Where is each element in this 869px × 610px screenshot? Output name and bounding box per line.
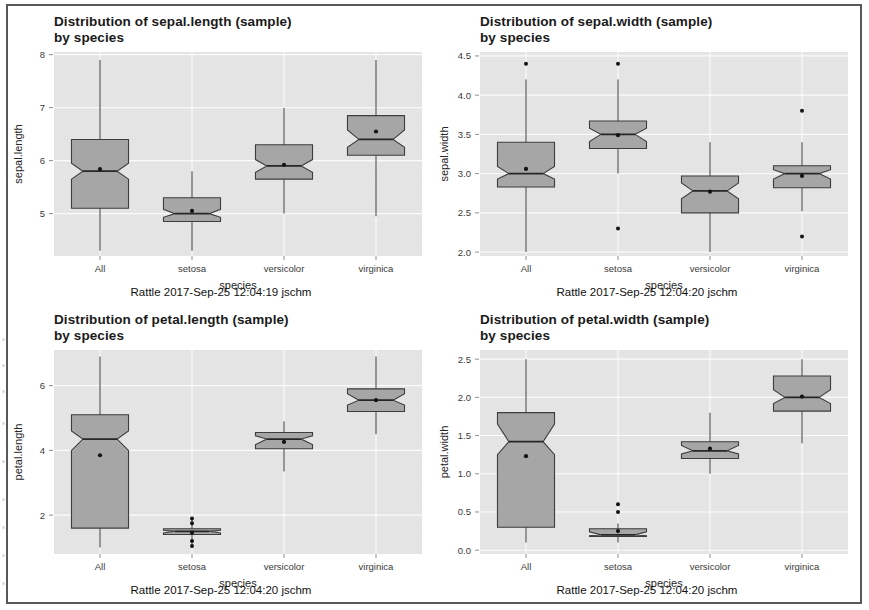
figure-frame: Distribution of sepal.length (sample) by… [6, 4, 862, 604]
x-tick-label-virginica: virginica [359, 263, 395, 274]
y-tick-label: 5 [40, 208, 45, 219]
plot-area-petal-width[interactable]: 0.00.51.01.52.02.5petal.widthAllsetosave… [434, 304, 860, 602]
caption-petal-length: Rattle 2017-Sep-25 12:04:20 jschm [8, 584, 434, 596]
y-tick-label: 2.5 [458, 354, 471, 365]
y-tick-label: 2 [40, 510, 45, 521]
y-tick-label: 3.5 [458, 129, 471, 140]
y-tick-label: 1.0 [458, 468, 471, 479]
y-tick-label: 3.0 [458, 168, 471, 179]
x-tick-label-setosa: setosa [604, 561, 633, 572]
caption-sepal-length: Rattle 2017-Sep-25 12:04:19 jschm [8, 286, 434, 298]
x-tick-label-setosa: setosa [604, 263, 633, 274]
plot-grid: Distribution of sepal.length (sample) by… [8, 6, 860, 602]
y-tick-label: 8 [40, 49, 45, 60]
y-tick-label: 2.0 [458, 247, 471, 258]
x-tick-label-setosa: setosa [178, 561, 207, 572]
x-tick-label-versicolor: versicolor [264, 263, 305, 274]
x-tick-label-virginica: virginica [785, 561, 821, 572]
y-tick-label: 6 [40, 380, 45, 391]
x-tick-label-All: All [95, 561, 106, 572]
y-axis-label: petal.width [438, 426, 450, 479]
x-tick-label-virginica: virginica [359, 561, 395, 572]
y-tick-label: 4.5 [458, 50, 471, 61]
plot-area-sepal-width[interactable]: 2.02.53.03.54.04.5sepal.widthAllsetosave… [434, 6, 860, 304]
boxplot-svg-petal-width: 0.00.51.01.52.02.5petal.widthAllsetosave… [434, 304, 860, 602]
x-tick-label-versicolor: versicolor [264, 561, 305, 572]
y-tick-label: 1.5 [458, 430, 471, 441]
plot-area-sepal-length[interactable]: 5678sepal.lengthAllsetosaversicolorvirgi… [8, 6, 434, 304]
y-tick-label: 4.0 [458, 90, 471, 101]
panel-sepal-width[interactable]: Distribution of sepal.width (sample) by … [434, 6, 860, 304]
y-axis-label: petal.length [12, 424, 24, 481]
panel-petal-width[interactable]: Distribution of petal.width (sample) by … [434, 304, 860, 602]
x-tick-label-virginica: virginica [785, 263, 821, 274]
x-tick-label-setosa: setosa [178, 263, 207, 274]
x-tick-label-versicolor: versicolor [690, 263, 731, 274]
y-tick-label: 2.5 [458, 207, 471, 218]
boxplot-svg-sepal-width: 2.02.53.03.54.04.5sepal.widthAllsetosave… [434, 6, 860, 304]
x-tick-label-All: All [521, 561, 532, 572]
boxplot-svg-sepal-length: 5678sepal.lengthAllsetosaversicolorvirgi… [8, 6, 434, 304]
panel-petal-length[interactable]: Distribution of petal.length (sample) by… [8, 304, 434, 602]
y-axis-label: sepal.width [438, 126, 450, 181]
y-tick-label: 0.0 [458, 545, 471, 556]
y-tick-label: 0.5 [458, 506, 471, 517]
y-tick-label: 4 [40, 445, 45, 456]
caption-sepal-width: Rattle 2017-Sep-25 12:04:20 jschm [434, 286, 860, 298]
y-tick-label: 6 [40, 155, 45, 166]
x-tick-label-All: All [95, 263, 106, 274]
caption-petal-width: Rattle 2017-Sep-25 12:04:20 jschm [434, 584, 860, 596]
x-tick-label-versicolor: versicolor [690, 561, 731, 572]
x-tick-label-All: All [521, 263, 532, 274]
boxplot-svg-petal-length: 246petal.lengthAllsetosaversicolorvirgin… [8, 304, 434, 602]
plot-area-petal-length[interactable]: 246petal.lengthAllsetosaversicolorvirgin… [8, 304, 434, 602]
y-tick-label: 2.0 [458, 392, 471, 403]
panel-sepal-length[interactable]: Distribution of sepal.length (sample) by… [8, 6, 434, 304]
y-tick-label: 7 [40, 102, 45, 113]
y-axis-label: sepal.length [12, 124, 24, 183]
